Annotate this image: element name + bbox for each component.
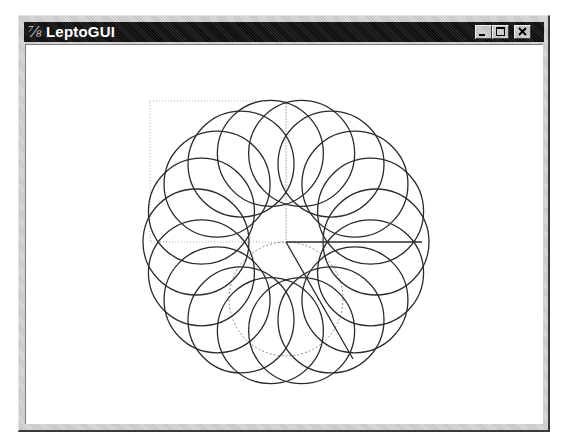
- close-icon: [515, 26, 530, 38]
- ring-circle: [217, 278, 323, 384]
- ring-circle: [302, 131, 408, 237]
- spirograph-canvas[interactable]: [26, 45, 544, 425]
- tk-feather-icon[interactable]: ⅞: [28, 24, 44, 40]
- title-bar[interactable]: ⅞ LeptoGUI: [24, 22, 544, 42]
- close-button[interactable]: [514, 25, 531, 39]
- ring-circle: [164, 131, 270, 237]
- minimize-button[interactable]: [475, 25, 492, 39]
- drawing-canvas-area[interactable]: [25, 44, 543, 424]
- guide-rect: [150, 101, 286, 242]
- maximize-icon: [493, 26, 508, 38]
- minimize-icon: [476, 26, 491, 38]
- window-title: LeptoGUI: [46, 23, 115, 41]
- ring-circle: [302, 247, 408, 353]
- ring-circle: [249, 100, 355, 206]
- maximize-button[interactable]: [492, 25, 509, 39]
- ring-circle: [164, 247, 270, 353]
- app-window: ⅞ LeptoGUI: [18, 15, 550, 432]
